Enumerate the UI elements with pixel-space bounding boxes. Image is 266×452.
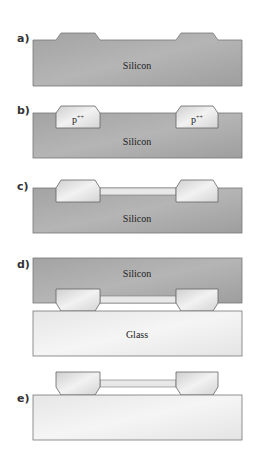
p-doped-region-right (176, 289, 218, 311)
glass-label: Glass (126, 329, 148, 340)
step-a-label: a) (17, 32, 29, 45)
step-d: d) Silicon Glass (17, 258, 242, 356)
silicon-label: Silicon (123, 213, 151, 224)
silicon-label: Silicon (123, 60, 151, 71)
p-doped-region-right (176, 372, 218, 395)
p-doped-region-left (56, 180, 100, 202)
step-c-label: c) (17, 180, 29, 193)
p-doped-region-right (176, 180, 218, 202)
step-e-label: e) (17, 392, 30, 405)
silicon-label: Silicon (123, 136, 151, 147)
step-e: e) (17, 372, 242, 440)
step-d-label: d) (17, 258, 30, 271)
p-doped-region-left (56, 289, 100, 311)
step-c: c) Silicon (17, 180, 242, 233)
silicon-label: Silicon (123, 268, 151, 279)
step-a: a) Silicon (17, 32, 242, 86)
p-doped-region-left (56, 372, 100, 395)
glass-substrate (33, 395, 242, 440)
step-b-label: b) (17, 104, 30, 117)
membrane (100, 380, 176, 387)
process-flow-diagram: a) Silicon b) p++ p++ Silicon c) Silicon… (0, 0, 266, 452)
step-b: b) p++ p++ Silicon (17, 104, 242, 158)
membrane (100, 188, 176, 195)
membrane (100, 296, 176, 303)
